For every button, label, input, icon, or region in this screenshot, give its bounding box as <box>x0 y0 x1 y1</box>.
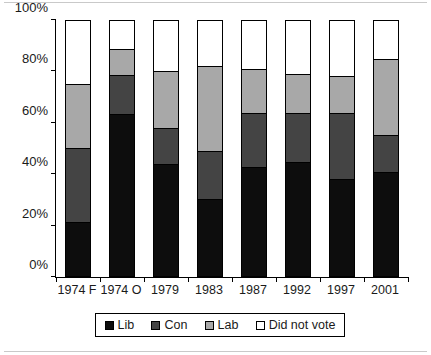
y-axis-tick-label: 40% <box>22 155 48 168</box>
bar-1992 <box>285 20 311 277</box>
bar-segment-lib <box>330 180 354 276</box>
bar-segment-dnv <box>286 21 310 75</box>
bar-1974-o <box>109 20 135 277</box>
chart-legend: LibConLabDid not vote <box>95 313 345 337</box>
bar-segment-con <box>242 114 266 168</box>
legend-item-dnv: Did not vote <box>256 319 336 332</box>
bar-segment-con <box>330 114 354 181</box>
bar-2001 <box>373 20 399 277</box>
bar-segment-con <box>198 152 222 201</box>
x-axis-label: 1992 <box>275 282 319 298</box>
y-axis-tick-label: 60% <box>22 103 48 116</box>
bar-segment-dnv <box>154 21 178 72</box>
legend-item-lab: Lab <box>205 319 239 332</box>
bar-segment-lab <box>66 85 90 149</box>
stacked-bar-chart-figure: 0%20%40%60%80%100% 1974 F1974 O197919831… <box>0 0 431 355</box>
bar-segment-dnv <box>66 21 90 85</box>
x-axis-label: 1987 <box>231 282 275 298</box>
x-axis-label: 1974 F <box>55 282 99 298</box>
plot-area: 0%20%40%60%80%100% <box>55 20 408 278</box>
bar-segment-lib <box>242 168 266 276</box>
bar-segment-con <box>110 76 134 115</box>
bar-slot <box>100 20 144 277</box>
bar-segment-lib <box>154 165 178 276</box>
x-axis-label: 1979 <box>143 282 187 298</box>
legend-item-con: Con <box>151 319 187 332</box>
bar-segment-lab <box>242 70 266 114</box>
legend-label: Con <box>164 319 187 332</box>
legend-label: Did not vote <box>269 319 336 332</box>
legend-item-lib: Lib <box>105 319 135 332</box>
bar-segment-lab <box>330 77 354 113</box>
x-axis-labels: 1974 F1974 O197919831987199219972001 <box>55 282 407 298</box>
y-axis-tick-label: 80% <box>22 52 48 65</box>
x-axis-tick <box>408 277 409 282</box>
bar-segment-lab <box>374 60 398 137</box>
legend-swatch-icon <box>205 321 214 330</box>
bar-segment-dnv <box>374 21 398 60</box>
bar-segment-lab <box>286 75 310 114</box>
bar-segment-lib <box>374 173 398 276</box>
page-rule-bottom <box>4 351 427 352</box>
bar-segment-lib <box>110 115 134 276</box>
bar-1983 <box>197 20 223 277</box>
bars-container <box>56 20 408 277</box>
page-rule-top <box>4 2 427 3</box>
y-axis-tick-label: 100% <box>15 1 48 14</box>
bar-slot <box>320 20 364 277</box>
legend-swatch-icon <box>151 321 160 330</box>
bar-slot <box>144 20 188 277</box>
bar-1997 <box>329 20 355 277</box>
bar-segment-dnv <box>110 21 134 50</box>
bar-slot <box>56 20 100 277</box>
x-axis-label: 1983 <box>187 282 231 298</box>
legend-label: Lib <box>118 319 135 332</box>
x-axis-label: 2001 <box>363 282 407 298</box>
bar-segment-con <box>374 136 398 172</box>
legend-swatch-icon <box>256 321 265 330</box>
x-axis-label: 1997 <box>319 282 363 298</box>
bar-segment-dnv <box>198 21 222 67</box>
bar-1987 <box>241 20 267 277</box>
bar-slot <box>188 20 232 277</box>
bar-1979 <box>153 20 179 277</box>
bar-slot <box>232 20 276 277</box>
legend-swatch-icon <box>105 321 114 330</box>
bar-segment-lab <box>154 72 178 128</box>
bar-segment-con <box>154 129 178 165</box>
x-axis-label: 1974 O <box>99 282 143 298</box>
bar-slot <box>276 20 320 277</box>
bar-segment-lib <box>66 223 90 276</box>
y-axis-tick-label: 0% <box>29 258 48 271</box>
bar-segment-con <box>286 114 310 163</box>
legend-label: Lab <box>218 319 239 332</box>
bar-segment-lib <box>198 200 222 276</box>
bar-segment-lib <box>286 163 310 276</box>
bar-segment-con <box>66 149 90 223</box>
y-axis-tick-label: 20% <box>22 206 48 219</box>
bar-1974-f <box>65 20 91 277</box>
bar-segment-lab <box>198 67 222 151</box>
bar-segment-lab <box>110 50 134 76</box>
bar-segment-dnv <box>242 21 266 70</box>
bar-segment-dnv <box>330 21 354 77</box>
bar-slot <box>364 20 408 277</box>
